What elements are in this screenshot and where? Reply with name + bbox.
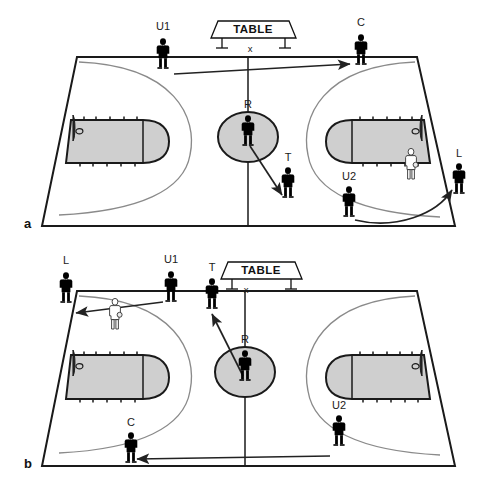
panel-b-label-c: C	[127, 416, 135, 428]
panel-a-label-u1: U1	[156, 20, 170, 32]
panel-a-label: a	[24, 216, 32, 231]
panel-a-label-t: T	[285, 151, 292, 163]
panel-a-label-u2: U2	[342, 170, 356, 182]
panel-b-right-key	[326, 355, 430, 399]
panel-a-label-r: R	[244, 98, 252, 110]
panel-a-left-key	[66, 120, 169, 163]
panel-a-table-label: TABLE	[233, 23, 272, 35]
panel-a-table-center-mark: x	[248, 43, 253, 54]
panel-b-label-l: L	[63, 254, 69, 266]
panel-b-label-u2: U2	[332, 399, 346, 411]
panel-a-label-c: C	[357, 16, 365, 28]
panel-b-table-label: TABLE	[241, 264, 280, 276]
figure-root: .shade-dark .fg-body{fill:#3a3a3a;stroke…	[0, 0, 483, 485]
panel-b-label-r: R	[241, 333, 249, 345]
panel-b-label-u1: U1	[164, 253, 178, 265]
panel-b-label: b	[24, 456, 32, 471]
panel-b-label-t: T	[209, 261, 216, 273]
panel-a-label-l: L	[456, 147, 462, 159]
panel-b-left-key	[66, 355, 169, 399]
canvas-background	[0, 0, 483, 485]
diagram-canvas: .shade-dark .fg-body{fill:#3a3a3a;stroke…	[0, 0, 483, 485]
